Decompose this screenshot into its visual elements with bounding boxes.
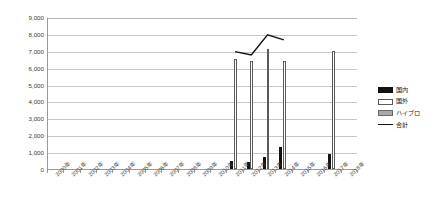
- y-axis: 9,0008,0007,0006,0005,0004,0003,0002,000…: [0, 18, 44, 170]
- x-axis-tick-mark: [161, 170, 162, 173]
- x-axis-tick-mark: [63, 170, 64, 173]
- y-axis-tick-label: 1,000: [4, 150, 44, 156]
- x-axis-tick-mark: [96, 170, 97, 173]
- legend-item-total[interactable]: 合計: [378, 121, 444, 129]
- legend-item-label: 合計: [396, 122, 408, 128]
- chart-container: 9,0008,0007,0006,0005,0004,0003,0002,000…: [0, 0, 446, 214]
- y-axis-tick-label: 3,000: [4, 116, 44, 122]
- x-axis-tick-mark: [194, 170, 195, 173]
- legend-item-domestic[interactable]: 国内: [378, 86, 444, 94]
- x-axis-tick-mark: [275, 170, 276, 173]
- y-axis-tick-label: 9,000: [4, 15, 44, 21]
- legend-item-overseas[interactable]: 国外: [378, 98, 444, 106]
- x-axis-tick-mark: [226, 170, 227, 173]
- y-axis-tick-label: 8,000: [4, 32, 44, 38]
- x-axis-tick-mark: [259, 170, 260, 173]
- x-axis-tick-mark: [129, 170, 130, 173]
- x-axis: 2000年2001年2002年2003年2004年2005年2006年2007年…: [47, 170, 357, 214]
- x-axis-tick-mark: [145, 170, 146, 173]
- x-axis-tick-mark: [308, 170, 309, 173]
- chart-legend: 国内国外ハイブロ合計: [378, 86, 444, 129]
- x-axis-tick-mark: [357, 170, 358, 173]
- y-axis-tick-label: 2,000: [4, 133, 44, 139]
- legend-item-label: ハイブロ: [396, 110, 420, 116]
- x-axis-tick-mark: [210, 170, 211, 173]
- x-axis-tick-mark: [324, 170, 325, 173]
- total-line: [235, 35, 284, 55]
- line-series-layer: [48, 18, 357, 169]
- legend-item-label: 国外: [396, 98, 408, 104]
- y-axis-tick-label: 5,000: [4, 82, 44, 88]
- legend-swatch-hybrid-icon: [378, 110, 393, 116]
- legend-swatch-overseas-icon: [378, 99, 393, 105]
- x-axis-tick-mark: [112, 170, 113, 173]
- x-axis-tick-mark: [80, 170, 81, 173]
- legend-swatch-domestic-icon: [378, 87, 393, 93]
- legend-item-label: 国内: [396, 87, 408, 93]
- y-axis-tick-label: 6,000: [4, 66, 44, 72]
- legend-item-hybrid[interactable]: ハイブロ: [378, 109, 444, 117]
- x-axis-tick-mark: [178, 170, 179, 173]
- x-axis-tick-mark: [47, 170, 48, 173]
- y-axis-tick-label: 4,000: [4, 99, 44, 105]
- x-axis-tick-mark: [341, 170, 342, 173]
- y-axis-tick-label: 0: [4, 167, 44, 173]
- plot-area: [47, 18, 357, 170]
- x-axis-tick-mark: [243, 170, 244, 173]
- legend-swatch-total-icon: [378, 124, 393, 125]
- x-axis-tick-mark: [292, 170, 293, 173]
- y-axis-tick-label: 7,000: [4, 49, 44, 55]
